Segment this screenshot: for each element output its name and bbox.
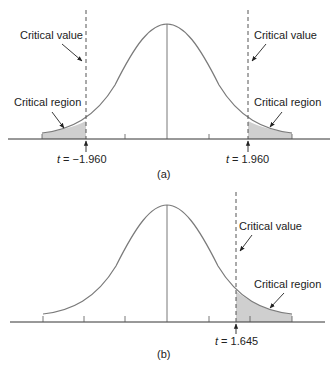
critical-value-label-b: Critical value <box>239 220 302 232</box>
panel-b: Critical value Critical region t = 1.645… <box>10 192 325 360</box>
panel-b-caption: (b) <box>157 348 170 360</box>
critical-region-arrow-b <box>270 293 284 308</box>
left-critical-region-label: Critical region <box>14 96 81 108</box>
t-label-b: t = 1.645 <box>215 335 258 347</box>
right-critical-value-arrow <box>252 44 266 61</box>
left-critical-value-label: Critical value <box>20 29 83 41</box>
right-critical-value-label: Critical value <box>254 29 317 41</box>
diagram: Critical value Critical region Critical … <box>0 0 336 371</box>
right-critical-region-shade <box>248 121 292 139</box>
right-critical-region-label: Critical region <box>254 96 321 108</box>
left-critical-region-shade <box>42 121 86 139</box>
panel-a-caption: (a) <box>157 168 170 180</box>
panel-a: Critical value Critical region Critical … <box>8 10 330 180</box>
right-t-label: t = 1.960 <box>226 153 269 165</box>
left-critical-region-arrow <box>52 112 64 128</box>
critical-value-arrow-b <box>240 235 252 251</box>
critical-region-label-b: Critical region <box>254 278 321 290</box>
left-critical-value-arrow <box>62 44 82 61</box>
right-critical-region-arrow <box>270 112 282 127</box>
left-t-label: t = −1.960 <box>57 153 107 165</box>
